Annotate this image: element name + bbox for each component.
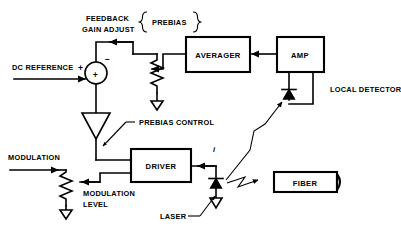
ground-symbol-feedback-pot: [151, 93, 163, 110]
wire-driver-to-laser: [191, 166, 216, 178]
modulation-level-potentiometer[interactable]: [58, 170, 72, 206]
prebias-amplifier: [82, 113, 110, 139]
summing-junction-plus-inside: +: [93, 70, 98, 80]
summing-junction-minus-sign: −: [105, 54, 110, 64]
fiber-label: FIBER: [293, 179, 318, 188]
feedback-gain-adjust-label-line1: FEEDBACK: [86, 14, 129, 23]
driver-label: DRIVER: [146, 162, 177, 171]
optical-path-laser-to-fiber: [227, 177, 258, 187]
schematic-canvas: FEEDBACK GAIN ADJUST PREBIAS AVERAGER AM…: [0, 0, 401, 237]
local-detector-diode-triangle: [284, 90, 295, 100]
feedback-gain-adjust-potentiometer[interactable]: [151, 54, 163, 93]
prebias-brace-left: [139, 12, 148, 32]
wire-feedback-to-summing-minus: [96, 42, 133, 62]
dc-reference-label: DC REFERENCE: [12, 63, 73, 72]
amp-label: AMP: [291, 51, 309, 60]
laser-label: LASER: [160, 212, 187, 221]
modulation-label: MODULATION: [8, 153, 60, 162]
laser-diode: [209, 179, 223, 199]
laser-leader-arrow: [200, 196, 215, 216]
local-detector-label: LOCAL DETECTOR: [330, 85, 401, 94]
modulation-level-label-line2: LEVEL: [83, 200, 108, 209]
averager-label: AVERAGER: [195, 51, 240, 60]
current-label: i: [213, 145, 216, 154]
schematic-diagram: FEEDBACK GAIN ADJUST PREBIAS AVERAGER AM…: [0, 0, 401, 237]
optical-path-laser-to-detector: [226, 102, 282, 180]
modulation-level-label-line1: MODULATION: [83, 189, 135, 198]
prebias-label: PREBIAS: [152, 18, 187, 27]
ground-symbol-modulation-pot: [60, 206, 72, 219]
prebias-brace-right: [193, 12, 202, 32]
prebias-control-leader-arrow: [103, 122, 126, 146]
summing-junction-plus-sign: +: [78, 63, 83, 73]
wire-driver-to-modulation-pot: [80, 173, 131, 182]
prebias-control-label: PREBIAS CONTROL: [139, 118, 214, 127]
feedback-gain-adjust-label-line2: GAIN ADJUST: [82, 25, 135, 34]
